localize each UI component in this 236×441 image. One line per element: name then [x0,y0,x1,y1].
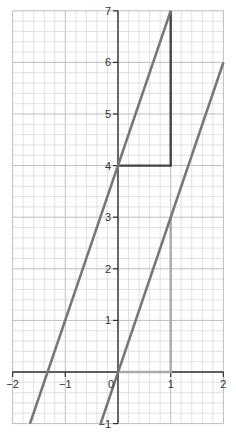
y-tick-label: 6 [105,56,111,68]
y-tick-label: 7 [105,5,111,17]
slope-triangles [118,11,171,372]
x-tick-label: 1 [168,378,174,390]
x-tick-label: −2 [6,378,19,390]
x-tick-label: −1 [59,378,72,390]
x-tick-label: 2 [220,378,226,390]
coordinate-plane: −2−1012−11234567 [0,0,236,441]
y-tick-label: −1 [98,418,111,430]
y-tick-label: 4 [105,160,111,172]
y-tick-label: 3 [105,211,111,223]
y-tick-label: 1 [105,314,111,326]
x-tick-label: 0 [108,378,114,390]
y-tick-label: 2 [105,263,111,275]
y-tick-label: 5 [105,108,111,120]
line-3x [101,62,224,423]
